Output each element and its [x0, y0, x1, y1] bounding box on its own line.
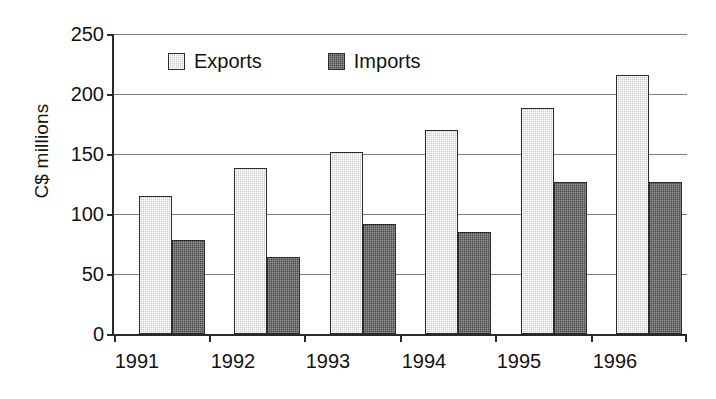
legend-label-exports: Exports	[194, 50, 262, 73]
x-tick-label-1995: 1995	[474, 350, 564, 373]
plot-area	[112, 34, 687, 336]
x-tick-mark	[591, 335, 593, 342]
gridline-250	[114, 34, 687, 35]
bar-imports-1995	[554, 182, 587, 334]
y-tick-label: 0	[58, 324, 104, 344]
legend-entry-exports: Exports	[168, 50, 262, 73]
x-tick-mark	[114, 335, 116, 342]
y-tick-mark	[107, 334, 114, 336]
y-tick-mark	[107, 94, 114, 96]
bar-exports-1994	[425, 130, 458, 334]
x-tick-label-1991: 1991	[92, 350, 182, 373]
gridline-200	[114, 94, 687, 95]
legend-entry-imports: Imports	[328, 50, 421, 73]
x-tick-label-1994: 1994	[379, 350, 469, 373]
legend-label-imports: Imports	[354, 50, 421, 73]
chart-legend: Exports Imports	[168, 50, 421, 73]
x-tick-label-1993: 1993	[283, 350, 373, 373]
y-tick-mark	[107, 214, 114, 216]
x-tick-mark	[400, 335, 402, 342]
y-tick-label: 100	[58, 204, 104, 224]
bar-exports-1993	[330, 152, 363, 334]
light-gray-swatch-icon	[168, 53, 185, 70]
y-tick-label: 200	[58, 84, 104, 104]
bar-imports-1996	[649, 182, 682, 334]
y-axis-tick-labels: 250 200 150 100 50 0	[56, 0, 104, 399]
bar-exports-1995	[521, 108, 554, 334]
gridline-150	[114, 154, 687, 155]
x-tick-mark	[209, 335, 211, 342]
x-tick-label-1996: 1996	[570, 350, 660, 373]
x-tick-mark	[304, 335, 306, 342]
dark-gray-swatch-icon	[328, 53, 345, 70]
bar-exports-1991	[139, 196, 172, 334]
y-axis-title: C$ millions	[31, 61, 53, 241]
y-tick-label: 250	[58, 24, 104, 44]
bar-exports-1992	[234, 168, 267, 334]
x-tick-mark	[495, 335, 497, 342]
gridline-100	[114, 214, 687, 215]
y-tick-mark	[107, 154, 114, 156]
bar-imports-1991	[172, 240, 205, 334]
bar-chart: C$ millions 250 200 150 100 50 0	[0, 0, 716, 399]
x-tick-mark	[685, 335, 687, 342]
y-tick-mark	[107, 274, 114, 276]
y-tick-mark	[107, 34, 114, 36]
bar-imports-1994	[458, 232, 491, 334]
y-tick-label: 150	[58, 144, 104, 164]
bar-imports-1993	[363, 224, 396, 334]
bar-imports-1992	[267, 257, 300, 334]
bar-exports-1996	[616, 75, 649, 334]
y-tick-label: 50	[58, 264, 104, 284]
x-tick-label-1992: 1992	[188, 350, 278, 373]
